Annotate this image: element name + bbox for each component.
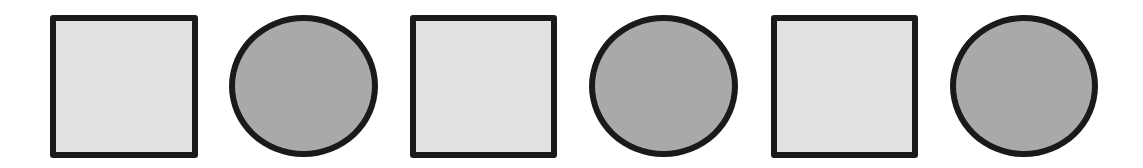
square-shape [50, 15, 198, 158]
square-shape [410, 15, 557, 158]
square-shape [771, 15, 918, 158]
circle-shape [950, 15, 1098, 157]
circle-shape [589, 15, 738, 157]
shape-sequence-diagram [0, 0, 1143, 168]
circle-shape [229, 15, 378, 157]
